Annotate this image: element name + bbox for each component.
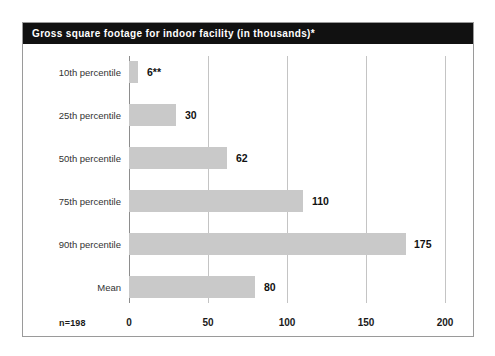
xtick-label-50: 50 bbox=[202, 317, 213, 328]
bar-90th-percentile bbox=[129, 233, 406, 255]
xtick-label-200: 200 bbox=[437, 317, 454, 328]
bar-value-label: 62 bbox=[236, 152, 248, 164]
xtick-label-150: 150 bbox=[358, 317, 375, 328]
bar-value-label: 110 bbox=[312, 195, 329, 207]
bar-50th-percentile bbox=[129, 147, 227, 169]
gridline-50 bbox=[208, 56, 209, 303]
category-label: 25th percentile bbox=[23, 110, 121, 121]
bar-row: 25th percentile 30 bbox=[23, 95, 473, 135]
plot-area: 10th percentile 6** 25th percentile 30 5… bbox=[23, 44, 473, 336]
gridline-0 bbox=[129, 56, 130, 303]
bar-row: 10th percentile 6** bbox=[23, 52, 473, 92]
xtick-label-0: 0 bbox=[126, 317, 132, 328]
chart-title-bar: Gross square footage for indoor facility… bbox=[23, 23, 473, 44]
bar-75th-percentile bbox=[129, 190, 303, 212]
gridline-100 bbox=[287, 56, 288, 303]
bar-value-label: 80 bbox=[264, 281, 276, 293]
gridline-200 bbox=[445, 56, 446, 303]
category-label: 75th percentile bbox=[23, 196, 121, 207]
category-label: 90th percentile bbox=[23, 239, 121, 250]
bar-row: 90th percentile 175 bbox=[23, 224, 473, 264]
bar-25th-percentile bbox=[129, 104, 176, 126]
bar-10th-percentile bbox=[129, 61, 138, 83]
bar-value-label: 30 bbox=[185, 109, 197, 121]
xtick-label-100: 100 bbox=[279, 317, 296, 328]
bar-row: 50th percentile 62 bbox=[23, 138, 473, 178]
bar-value-label: 6** bbox=[147, 66, 161, 78]
bar-value-label: 175 bbox=[414, 238, 432, 250]
bar-row: 75th percentile 110 bbox=[23, 181, 473, 221]
page-title: Gross square footage for indoor facility… bbox=[32, 23, 315, 44]
sample-size-label: n=198 bbox=[59, 318, 86, 328]
category-label: 10th percentile bbox=[23, 67, 121, 78]
gridline-150 bbox=[366, 56, 367, 303]
category-label: 50th percentile bbox=[23, 153, 121, 164]
category-label: Mean bbox=[23, 282, 121, 293]
bar-mean bbox=[129, 276, 255, 298]
bar-row: Mean 80 bbox=[23, 267, 473, 307]
chart-figure: Gross square footage for indoor facility… bbox=[22, 22, 474, 337]
